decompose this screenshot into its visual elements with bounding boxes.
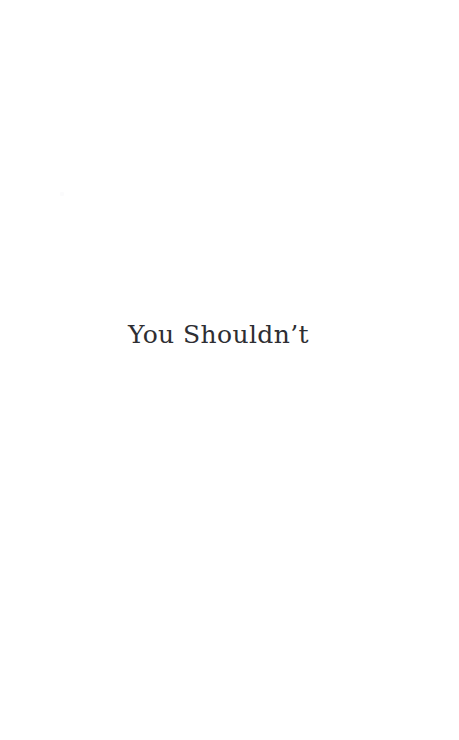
- page-title: You Shouldn’t: [0, 318, 459, 352]
- title-block: You Shouldn’t: [0, 318, 459, 352]
- book-page: You Shouldn’t: [0, 0, 459, 740]
- scan-artifact-speck: [60, 192, 64, 196]
